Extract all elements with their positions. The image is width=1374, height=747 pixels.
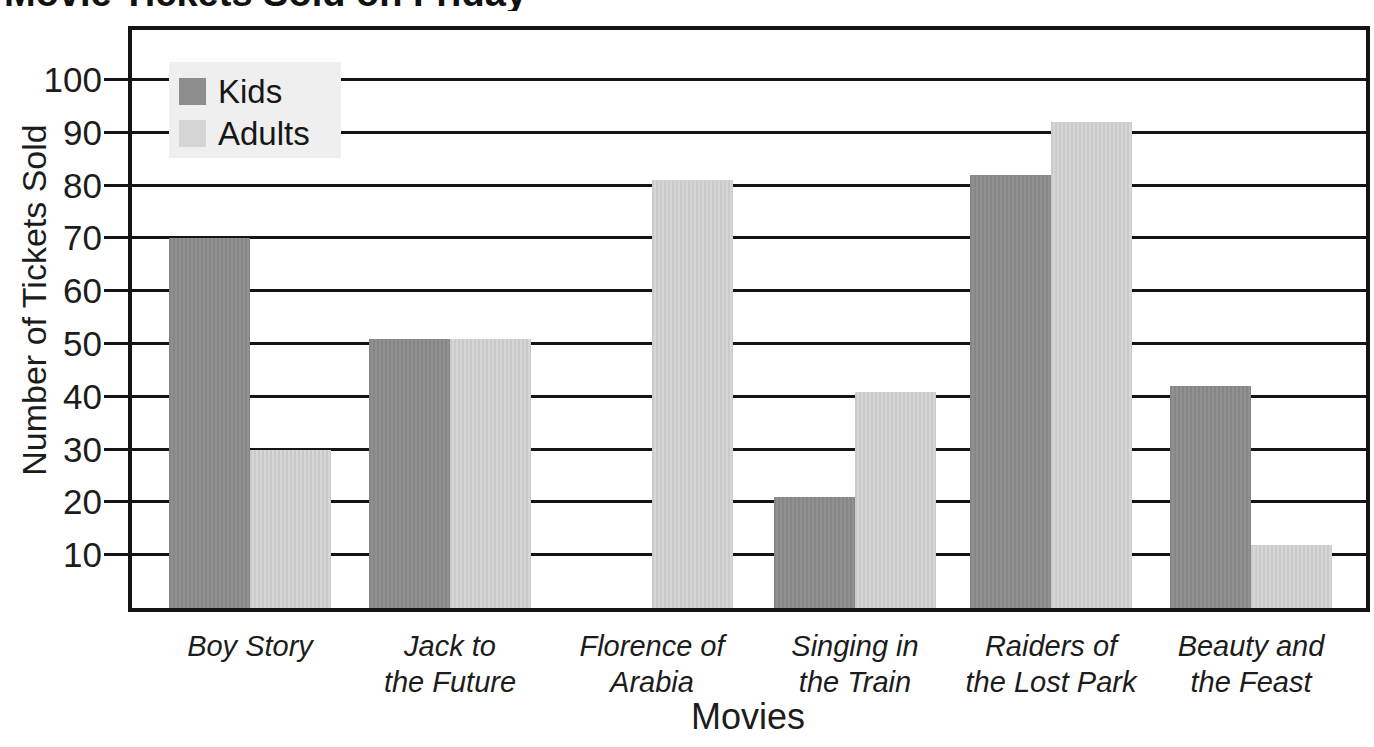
y-tick-label: 70 (0, 218, 102, 258)
legend-item-adults: Adults (179, 112, 341, 154)
bar-kids-singing-in-the-train (774, 497, 855, 608)
gridline (132, 342, 1366, 345)
chart-title: Movie Tickets Sold on Friday (4, 0, 527, 11)
y-tick-mark (104, 553, 130, 556)
y-tick-mark (104, 131, 130, 134)
y-tick-label: 80 (0, 166, 102, 206)
y-axis-tick-labels: 102030405060708090100 (0, 30, 104, 608)
gridline (132, 184, 1366, 187)
legend-item-kids: Kids (179, 70, 341, 112)
bar-adults-jack-to-the-future (450, 339, 531, 608)
bar-kids-raiders-of-the-lost-park (970, 175, 1051, 608)
y-tick-label: 10 (0, 535, 102, 575)
y-tick-mark (104, 289, 130, 292)
bar-adults-boy-story (250, 450, 331, 608)
legend-label-adults: Adults (218, 117, 310, 150)
x-category-label-line: Beauty and (1131, 628, 1371, 664)
y-tick-mark (104, 184, 130, 187)
adults-swatch-icon (179, 120, 206, 147)
x-axis-title: Movies (648, 696, 848, 738)
y-tick-label: 90 (0, 113, 102, 153)
bar-kids-boy-story (169, 238, 250, 608)
y-tick-label: 50 (0, 324, 102, 364)
gridline (132, 289, 1366, 292)
bar-adults-beauty-and-the-feast (1251, 545, 1332, 608)
y-tick-label: 100 (0, 60, 102, 100)
y-tick-label: 60 (0, 271, 102, 311)
x-category-label-beauty-and-the-feast: Beauty andthe Feast (1131, 628, 1371, 700)
y-tick-mark (104, 236, 130, 239)
y-tick-mark (104, 342, 130, 345)
bar-adults-florence-of-arabia (652, 180, 733, 608)
bar-adults-raiders-of-the-lost-park (1051, 122, 1132, 608)
bar-kids-jack-to-the-future (369, 339, 450, 608)
y-tick-label: 40 (0, 377, 102, 417)
y-tick-mark (104, 78, 130, 81)
y-tick-mark (104, 448, 130, 451)
y-tick-label: 20 (0, 482, 102, 522)
y-tick-mark (104, 500, 130, 503)
legend: Kids Adults (169, 62, 341, 158)
x-category-label-line: the Feast (1131, 664, 1371, 700)
y-axis-tick-marks (104, 30, 130, 608)
kids-swatch-icon (179, 78, 206, 105)
chart-title-clipped-region: Movie Tickets Sold on Friday (0, 0, 640, 11)
chart-page: Movie Tickets Sold on Friday Number of T… (0, 0, 1374, 747)
y-tick-mark (104, 395, 130, 398)
gridline (132, 236, 1366, 239)
plot-area: Kids Adults (128, 26, 1370, 612)
y-tick-label: 30 (0, 430, 102, 470)
bar-adults-singing-in-the-train (855, 392, 936, 608)
legend-label-kids: Kids (218, 75, 282, 108)
bar-kids-beauty-and-the-feast (1170, 386, 1251, 608)
